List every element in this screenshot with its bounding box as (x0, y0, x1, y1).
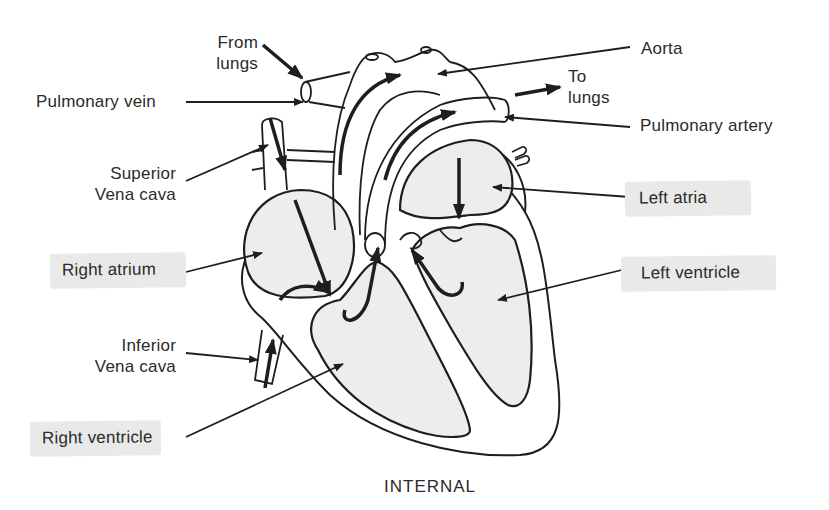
label-right-ventricle: Right ventricle (30, 420, 161, 456)
label-to-lungs-line1: To (568, 66, 610, 87)
label-pulmonary-vein: Pulmonary vein (36, 91, 156, 112)
superior-vena-cava-vessel (252, 118, 335, 190)
diagram-caption: INTERNAL (384, 477, 476, 497)
label-left-ventricle: Left ventricle (621, 255, 777, 292)
label-aorta: Aorta (641, 38, 683, 59)
label-right-atrium: Right atrium (50, 252, 186, 288)
label-to-lungs: To lungs (568, 66, 610, 108)
left-atrium-vessels (512, 147, 529, 166)
label-inferior-vena-cava-line1: Inferior (80, 335, 176, 356)
label-from-lungs-line1: From (202, 32, 258, 53)
label-superior-vena-cava-line1: Superior (80, 163, 176, 184)
label-to-lungs-line2: lungs (568, 87, 610, 108)
label-from-lungs-line2: lungs (202, 53, 258, 74)
label-inferior-vena-cava: Inferior Vena cava (80, 335, 176, 377)
label-from-lungs: From lungs (202, 32, 258, 74)
label-left-atria: Left atria (625, 180, 752, 216)
left-atrium-chamber (400, 140, 512, 218)
label-superior-vena-cava-line2: Vena cava (80, 184, 176, 205)
label-superior-vena-cava: Superior Vena cava (80, 163, 176, 205)
label-pulmonary-artery: Pulmonary artery (640, 115, 773, 136)
label-inferior-vena-cava-line2: Vena cava (80, 356, 176, 377)
pulmonary-vein-vessel (301, 72, 350, 108)
